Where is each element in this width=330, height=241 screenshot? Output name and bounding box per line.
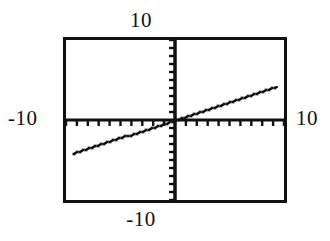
graphing-calculator-plot: 10 -10 -10 10 <box>0 0 330 241</box>
plot-canvas <box>0 0 330 241</box>
